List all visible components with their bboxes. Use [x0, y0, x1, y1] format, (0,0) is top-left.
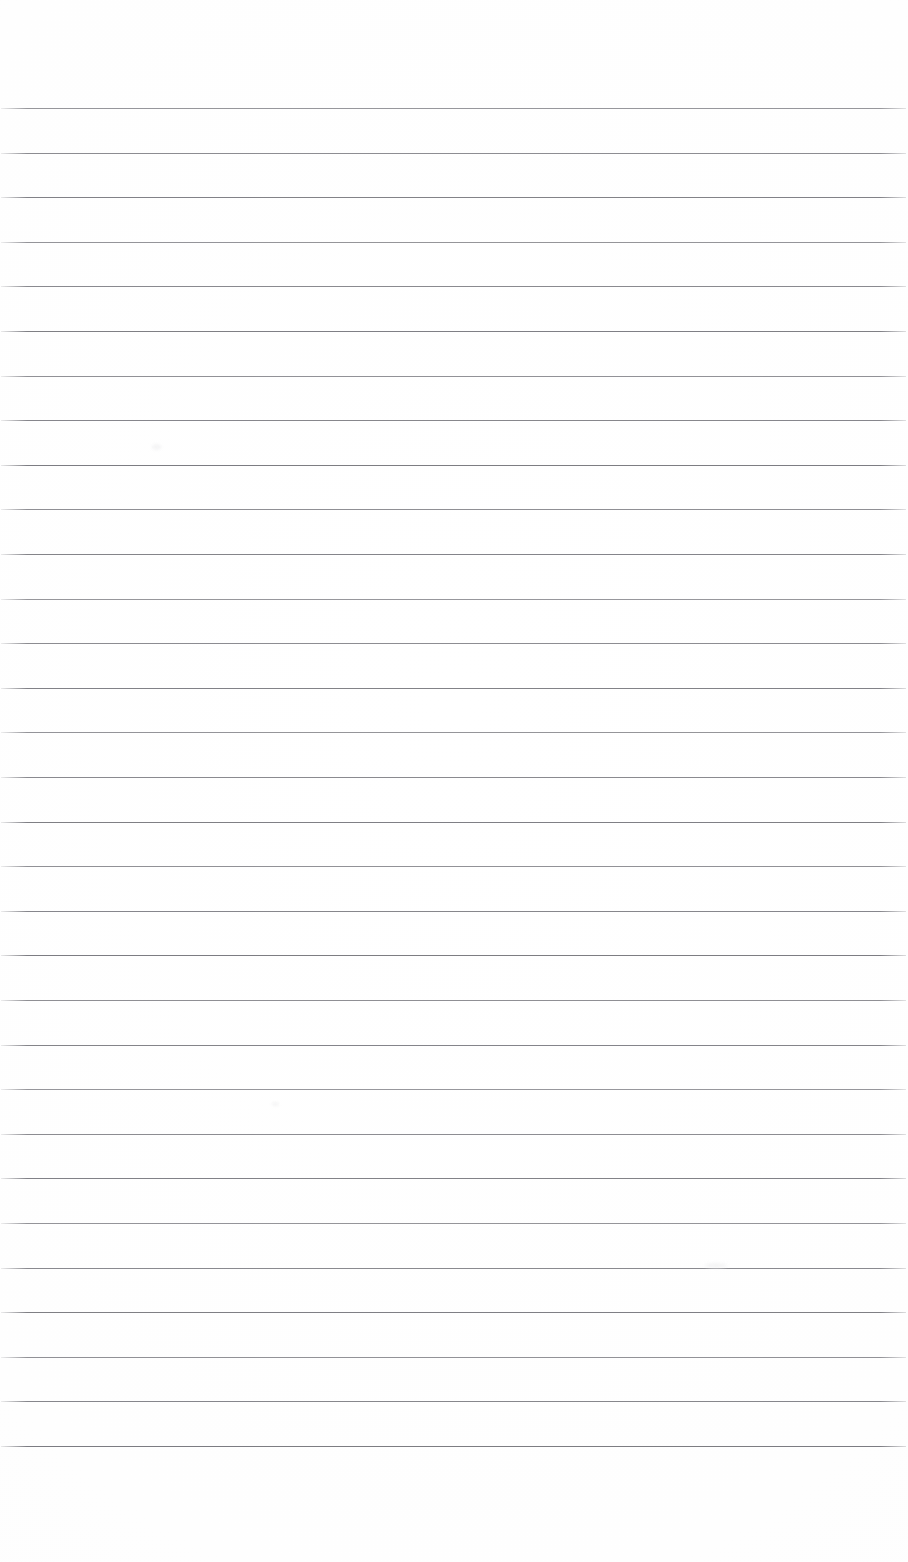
page-content-area — [1, 108, 906, 1466]
notebook-page — [0, 0, 908, 1562]
